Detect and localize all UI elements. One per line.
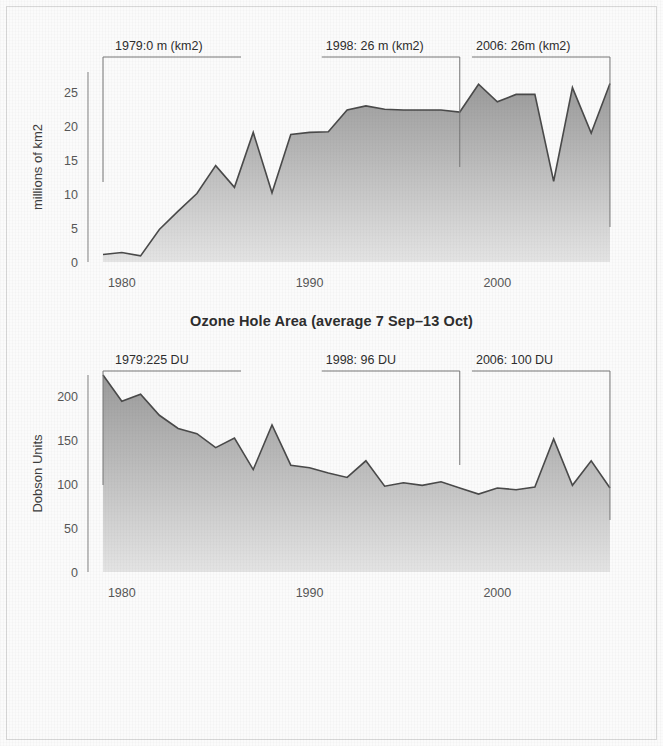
- y-tick-label: 10: [64, 188, 78, 202]
- annotation-label: 1979:0 m (km2): [115, 39, 203, 53]
- y-tick-label: 0: [71, 256, 78, 270]
- annotation-label: 1998: 96 DU: [326, 353, 396, 367]
- y-tick-label: 15: [64, 154, 78, 168]
- y-tick-label: 20: [64, 120, 78, 134]
- y-tick-label: 50: [64, 522, 78, 536]
- y-tick-label: 5: [71, 222, 78, 236]
- y-tick-label: 200: [57, 390, 78, 404]
- y-tick-label: 100: [57, 478, 78, 492]
- x-tick-label: 2000: [483, 586, 511, 600]
- chart-title-ozone-hole-area: Ozone Hole Area (average 7 Sep–13 Oct): [0, 313, 663, 329]
- x-tick-label: 1980: [108, 586, 136, 600]
- y-tick-label: 0: [71, 566, 78, 580]
- area-fill: [103, 375, 610, 572]
- ozone-hole-area-plot: 0510152025198019902000millions of km2197…: [0, 0, 663, 346]
- y-axis-title: Dobson Units: [30, 434, 45, 513]
- annotation-label: 2006: 26m (km2): [476, 39, 570, 53]
- y-tick-label: 25: [64, 86, 78, 100]
- y-tick-label: 150: [57, 434, 78, 448]
- y-axis-title: millions of km2: [30, 124, 45, 210]
- area-fill: [103, 84, 610, 262]
- annotation-label: 2006: 100 DU: [476, 353, 553, 367]
- x-tick-label: 1990: [296, 276, 324, 290]
- x-tick-label: 2000: [483, 276, 511, 290]
- annotation-label: 1979:225 DU: [115, 353, 189, 367]
- chart-ozone-hole-area: 0510152025198019902000millions of km2197…: [0, 0, 663, 346]
- x-tick-label: 1980: [108, 276, 136, 290]
- x-tick-label: 1990: [296, 586, 324, 600]
- annotation-bracket: [322, 371, 460, 465]
- annotation-bracket: [103, 57, 241, 182]
- chart-minimum-ozone: 050100150200198019902000Dobson Units1979…: [0, 350, 663, 746]
- annotation-label: 1998: 26 m (km2): [326, 39, 424, 53]
- minimum-ozone-plot: 050100150200198019902000Dobson Units1979…: [0, 350, 663, 746]
